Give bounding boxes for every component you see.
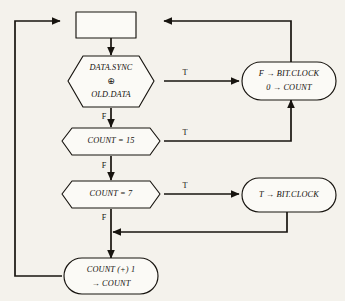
edge-label-count15-false: F [102, 161, 107, 170]
node-reset-clock-process[interactable] [242, 62, 336, 100]
flowchart-page: DATA.SYNC ⊕ OLD.DATA COUNT = 15 COUNT = … [0, 0, 345, 301]
edge-reset-to-start [164, 21, 291, 62]
node-increment-count-process[interactable] [64, 258, 158, 294]
increment-count-line2: → COUNT [91, 279, 131, 288]
count-eq-7-label: COUNT = 7 [90, 189, 133, 198]
edge-label-sync-true: T [182, 68, 187, 77]
edge-label-count15-true: T [182, 128, 187, 137]
reset-clock-line2: 0 → COUNT [266, 83, 313, 92]
data-sync-line1: DATA.SYNC [88, 63, 132, 72]
edge-label-count7-false: F [102, 213, 107, 222]
reset-clock-line1: F → BIT.CLOCK [258, 69, 320, 78]
count-eq-15-label: COUNT = 15 [87, 136, 134, 145]
data-sync-line2: OLD.DATA [91, 90, 131, 99]
edge-setclock-to-trunk [113, 212, 287, 232]
increment-count-line1: COUNT (+) 1 [87, 265, 136, 274]
edge-label-count7-true: T [182, 181, 187, 190]
flowchart-canvas: DATA.SYNC ⊕ OLD.DATA COUNT = 15 COUNT = … [0, 0, 345, 301]
node-start-box[interactable] [76, 12, 136, 38]
edge-increment-to-start [15, 21, 62, 276]
edge-label-sync-false: F [102, 112, 107, 121]
set-clock-label: T → BIT.CLOCK [259, 190, 319, 199]
xor-operator-icon: ⊕ [107, 76, 115, 86]
